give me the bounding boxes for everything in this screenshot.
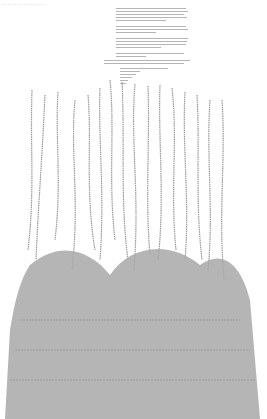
text-art-illustration	[0, 0, 267, 419]
